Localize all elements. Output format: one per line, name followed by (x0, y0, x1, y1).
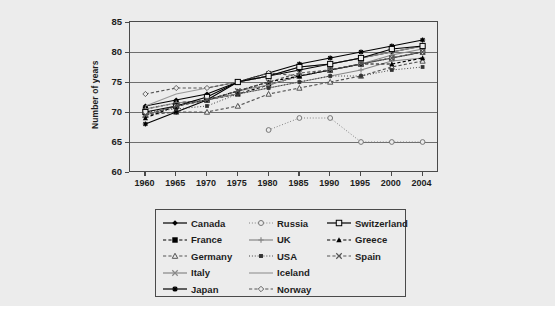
series-line (145, 58, 422, 118)
data-point-open-square (235, 79, 240, 84)
legend-swatch-russia (248, 216, 274, 230)
x-tick-mark (144, 172, 145, 176)
legend-label: Spain (355, 251, 381, 262)
legend-item-spain[interactable]: Spain (326, 248, 406, 265)
series-russia (266, 116, 425, 145)
x-tick-mark (360, 172, 361, 176)
legend-label: Italy (191, 267, 210, 278)
y-tick-mark (125, 172, 129, 173)
legend-item-germany[interactable]: Germany (162, 248, 248, 265)
legend-item-norway[interactable]: Norway (248, 281, 326, 298)
figure-canvas: Number of years 606570758085196019651970… (0, 0, 555, 306)
legend-label: France (191, 234, 222, 245)
series-italy (143, 46, 425, 117)
chart-legend: CanadaRussiaSwitzerlandFranceUKGreeceGer… (155, 209, 406, 297)
y-tick-label: 85 (96, 16, 122, 27)
series-line (145, 49, 422, 115)
legend-swatch-greece (326, 233, 352, 247)
legend-swatch-spain (326, 249, 352, 263)
data-point-open-circle (420, 140, 425, 145)
x-tick-label: 1960 (127, 178, 161, 188)
data-point-small-filled-square (298, 80, 302, 84)
series-spain (143, 49, 425, 117)
legend-item-greece[interactable]: Greece (326, 232, 406, 249)
x-tick-label: 1980 (251, 178, 285, 188)
data-point-open-diamond (258, 287, 263, 292)
legend-label: Iceland (277, 267, 310, 278)
legend-label: Japan (191, 284, 218, 295)
page-bottom-strip (0, 306, 555, 323)
data-point-open-triangle (204, 109, 209, 114)
series-japan (143, 37, 425, 126)
legend-swatch-germany (162, 249, 188, 263)
legend-swatch-italy (162, 266, 188, 280)
data-point-small-filled-square (205, 104, 209, 108)
data-point-open-triangle (235, 103, 240, 108)
legend-swatch-usa (248, 249, 274, 263)
legend-swatch-france (162, 233, 188, 247)
legend-grid: CanadaRussiaSwitzerlandFranceUKGreeceGer… (162, 215, 402, 298)
legend-item-iceland[interactable]: Iceland (248, 265, 326, 282)
legend-item-japan[interactable]: Japan (162, 281, 248, 298)
data-point-small-filled-square (390, 68, 394, 72)
data-point-star (420, 37, 425, 42)
data-point-plus (358, 67, 363, 72)
x-tick-mark (206, 172, 207, 176)
y-tick-label: 75 (96, 76, 122, 87)
data-point-filled-diamond (172, 221, 177, 226)
data-point-open-square (420, 43, 425, 48)
data-point-open-square (297, 64, 302, 69)
data-point-open-square (389, 46, 394, 51)
legend-item-usa[interactable]: USA (248, 248, 326, 265)
x-tick-label: 1985 (281, 178, 315, 188)
y-tick-label: 80 (96, 46, 122, 57)
data-point-open-circle (359, 140, 364, 145)
x-tick-label: 1990 (312, 178, 346, 188)
data-point-open-square (336, 221, 341, 226)
data-point-open-triangle (266, 91, 271, 96)
plot-area (129, 22, 437, 172)
x-tick-mark (391, 172, 392, 176)
legend-item-france[interactable]: France (162, 232, 248, 249)
x-tick-mark (268, 172, 269, 176)
data-point-small-filled-square (259, 254, 263, 258)
series-line (145, 67, 422, 112)
data-point-open-circle (389, 140, 394, 145)
x-tick-mark (175, 172, 176, 176)
data-point-small-filled-square (328, 74, 332, 78)
data-point-open-triangle (297, 85, 302, 90)
data-point-plus (258, 237, 263, 242)
data-point-open-circle (328, 116, 333, 121)
line-chart: Number of years 606570758085196019651970… (0, 0, 555, 200)
x-tick-label: 1970 (189, 178, 223, 188)
x-tick-label: 1995 (343, 178, 377, 188)
legend-item-canada[interactable]: Canada (162, 215, 248, 232)
legend-label: Russia (277, 218, 308, 229)
x-tick-mark (422, 172, 423, 176)
data-point-open-circle (297, 116, 302, 121)
x-tick-mark (329, 172, 330, 176)
data-point-open-triangle (172, 254, 177, 259)
legend-item-russia[interactable]: Russia (248, 215, 326, 232)
data-point-open-diamond (174, 85, 179, 90)
legend-item-italy[interactable]: Italy (162, 265, 248, 282)
data-point-open-diamond (204, 85, 209, 90)
data-point-star (358, 49, 363, 54)
series-line (145, 46, 422, 106)
legend-item-uk[interactable]: UK (248, 232, 326, 249)
data-point-open-circle (258, 221, 263, 226)
data-point-open-square (358, 55, 363, 60)
series-line (145, 61, 422, 115)
data-point-filled-square (172, 237, 177, 242)
series-line (145, 52, 422, 115)
legend-swatch-iceland (248, 266, 274, 280)
series-layer (130, 22, 438, 172)
legend-swatch-switzerland (326, 216, 352, 230)
series-line (145, 58, 422, 109)
data-point-small-filled-square (421, 65, 425, 69)
legend-label: Germany (191, 251, 232, 262)
legend-item-switzerland[interactable]: Switzerland (326, 215, 406, 232)
legend-label: Canada (191, 218, 225, 229)
data-point-star (172, 287, 177, 292)
data-point-small-filled-square (359, 74, 363, 78)
